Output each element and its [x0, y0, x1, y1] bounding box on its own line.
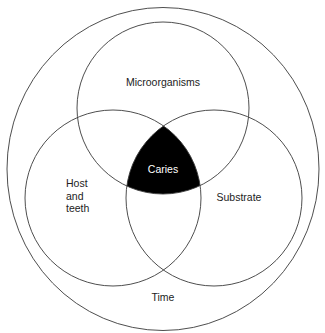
caries-intersection	[126, 110, 302, 286]
host-label-line-1: Host	[66, 177, 88, 189]
host-label-line-2: and	[66, 190, 84, 202]
microorganisms-label: Microorganisms	[126, 76, 200, 88]
caries-label: Caries	[148, 163, 178, 175]
caries-intersection-group	[126, 110, 302, 286]
host-label-line-3: teeth	[66, 202, 90, 214]
substrate-label: Substrate	[217, 191, 262, 203]
caries-venn-diagram: Microorganisms Host and teeth Substrate …	[0, 0, 325, 333]
time-label: Time	[152, 291, 175, 303]
